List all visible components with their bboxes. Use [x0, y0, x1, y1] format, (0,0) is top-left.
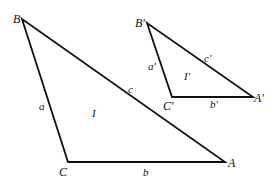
- vertex-label-B: B: [13, 12, 21, 26]
- triangle-small: B′ C′ A′ a′ b′ c′ I′: [135, 16, 264, 113]
- side-label-a-prime: a′: [148, 60, 157, 72]
- triangle-small-outline: [147, 23, 253, 97]
- vertex-label-C-prime: C′: [163, 99, 174, 113]
- triangle-name-I-prime: I′: [183, 70, 191, 82]
- triangle-large-outline: [22, 19, 225, 162]
- vertex-label-C: C: [59, 165, 68, 179]
- similar-triangles-diagram: B C A a b c I B′ C′ A′ a′ b′ c′ I′: [0, 0, 278, 184]
- triangle-name-I: I: [91, 107, 97, 119]
- side-label-c-prime: c′: [204, 52, 212, 64]
- side-label-b: b: [143, 166, 149, 178]
- triangle-large: B C A a b c I: [13, 12, 236, 179]
- side-label-b-prime: b′: [210, 98, 219, 110]
- vertex-label-A: A: [227, 156, 236, 170]
- side-label-a: a: [39, 100, 45, 112]
- side-label-c: c: [128, 83, 133, 95]
- vertex-label-B-prime: B′: [135, 16, 145, 30]
- vertex-label-A-prime: A′: [253, 91, 264, 105]
